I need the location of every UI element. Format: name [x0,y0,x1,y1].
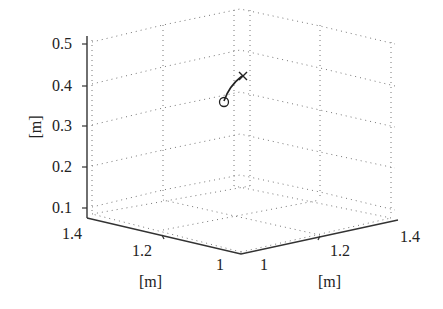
right-tick-1: 1 [260,257,268,273]
grid-lines [92,9,395,252]
z-tick-0.3: 0.3 [52,118,72,134]
z-tick-0.4: 0.4 [52,78,72,94]
trajectory-series [220,72,248,107]
left-axis-label: [m] [139,274,162,290]
z-tick-0.5: 0.5 [52,36,72,52]
left-tick-1.2: 1.2 [132,243,152,259]
right-axis-label: [m] [318,274,341,290]
left-tick-1: 1 [216,257,224,273]
end-marker-x [239,72,247,80]
z-tick-0.2: 0.2 [52,159,72,175]
axes [82,36,398,254]
left-tick-1.4: 1.4 [62,226,82,242]
right-tick-1.2: 1.2 [330,243,350,259]
right-tick-1.4: 1.4 [400,229,420,245]
z-tick-0.1: 0.1 [52,200,72,216]
z-axis-label: [m] [27,115,45,138]
